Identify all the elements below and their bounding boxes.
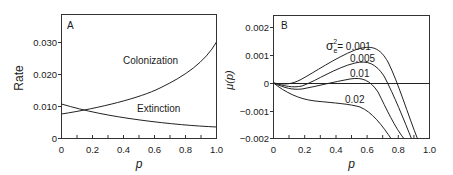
panel-a-label: A (67, 20, 74, 31)
sigma-label: σe2= 0.001 (326, 38, 371, 54)
svg-text:1.0: 1.0 (210, 144, 223, 155)
svg-text:−0.001: −0.001 (240, 106, 269, 117)
svg-text:0.6: 0.6 (360, 144, 373, 155)
svg-text:0.8: 0.8 (179, 144, 192, 155)
svg-text:0.4: 0.4 (329, 144, 342, 155)
panel-b-yticks (270, 28, 274, 139)
panel-b-ytick-labels: 0.002 0.001 0 −0.001 −0.002 (240, 22, 269, 144)
svg-text:1.0: 1.0 (423, 144, 436, 155)
svg-text:0.002: 0.002 (245, 22, 269, 33)
panel-a-ylabel: Rate (12, 65, 26, 91)
extinction-label: Extinction (137, 103, 180, 114)
panel-b-xtick-labels: 0 0.2 0.4 0.6 0.8 1.0 (271, 144, 436, 155)
panel-a-xticks (77, 135, 201, 139)
curve-label-0005: 0.005 (350, 53, 375, 64)
svg-text:0.020: 0.020 (33, 69, 57, 80)
figure: A 0 0.010 0.020 0.030 Rate 0 (0, 0, 453, 175)
panel-b: B 0.002 0.001 0 −0.001 −0.002 μ(p) (223, 16, 436, 172)
svg-text:0: 0 (52, 133, 57, 144)
curve-sigma-002 (274, 83, 393, 140)
panel-a: A 0 0.010 0.020 0.030 Rate 0 (12, 15, 223, 172)
svg-text:0.6: 0.6 (148, 144, 161, 155)
svg-text:0.2: 0.2 (86, 144, 99, 155)
svg-text:0.2: 0.2 (298, 144, 311, 155)
panel-a-ytick-labels: 0 0.010 0.020 0.030 (33, 37, 57, 144)
panel-b-xlabel: p (347, 157, 355, 171)
svg-text:0.030: 0.030 (33, 37, 57, 48)
panel-b-xticks (289, 135, 414, 139)
svg-text:0.010: 0.010 (33, 101, 57, 112)
panel-b-label: B (281, 20, 288, 31)
svg-text:0.8: 0.8 (392, 144, 405, 155)
curve-label-001: 0.01 (350, 68, 370, 79)
svg-text:−0.002: −0.002 (240, 133, 269, 144)
svg-text:0.4: 0.4 (117, 144, 130, 155)
panel-b-ylabel: μ(p) (223, 70, 235, 91)
panel-a-xtick-labels: 0 0.2 0.4 0.6 0.8 1.0 (59, 144, 223, 155)
svg-text:0.001: 0.001 (245, 50, 269, 61)
panel-a-yticks (58, 43, 62, 139)
svg-text:0: 0 (59, 144, 64, 155)
panel-a-xlabel: p (135, 157, 143, 171)
curve-label-002: 0.02 (345, 94, 365, 105)
colonization-label: Colonization (123, 55, 178, 66)
curve-sigma-0005 (274, 62, 413, 140)
svg-text:0: 0 (264, 78, 269, 89)
svg-text:0: 0 (271, 144, 276, 155)
